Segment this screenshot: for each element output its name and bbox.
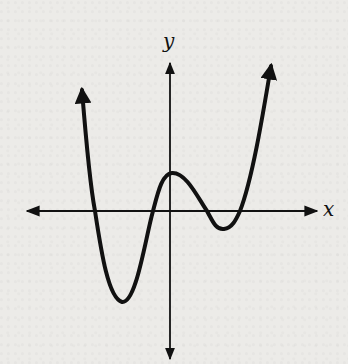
polynomial-graph-figure: y x <box>0 0 348 364</box>
y-axis-label: y <box>163 31 174 51</box>
polynomial-curve <box>82 66 271 302</box>
x-axis-label: x <box>323 199 334 219</box>
graph-canvas <box>0 0 348 364</box>
